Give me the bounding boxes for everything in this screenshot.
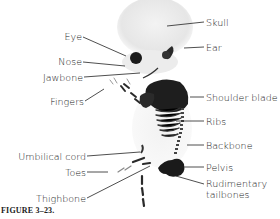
label-umbilical-cord: Umbilical cord bbox=[18, 151, 86, 162]
label-skull: Skull bbox=[206, 17, 229, 28]
label-thighbone: Thighbone bbox=[36, 193, 86, 204]
label-eye: Eye bbox=[65, 31, 82, 42]
label-nose: Nose bbox=[58, 56, 82, 67]
label-tailbones-line2: tailbones bbox=[206, 189, 267, 200]
label-toes: Toes bbox=[65, 167, 86, 178]
label-fingers: Fingers bbox=[50, 96, 84, 107]
label-ear: Ear bbox=[206, 42, 222, 53]
label-rudimentary-line1: Rudimentary bbox=[206, 178, 267, 189]
label-shoulder-blade: Shoulder blade bbox=[206, 92, 278, 103]
skull-shape bbox=[117, 0, 193, 57]
label-jawbone: Jawbone bbox=[43, 72, 83, 83]
label-pelvis: Pelvis bbox=[206, 162, 233, 173]
eye-shape bbox=[130, 52, 142, 64]
label-rudimentary-tailbones: Rudimentary tailbones bbox=[206, 178, 267, 200]
figure-caption: FIGURE 3–23. bbox=[1, 206, 55, 215]
label-backbone: Backbone bbox=[206, 140, 252, 151]
label-ribs: Ribs bbox=[206, 116, 226, 127]
